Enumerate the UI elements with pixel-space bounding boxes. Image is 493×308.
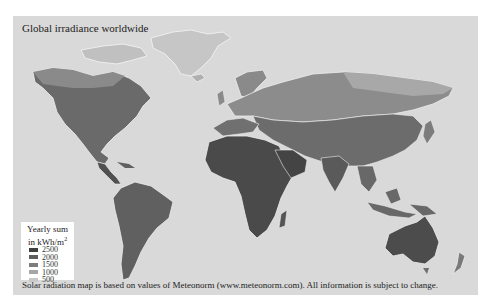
legend-swatch-1000	[29, 270, 38, 274]
source-footnote: Solar radiation map is based on values o…	[22, 280, 438, 290]
legend-item-1500: 1500	[29, 261, 58, 268]
legend-swatch-1500	[29, 263, 38, 267]
map-panel: Global irradiance worldwide Yearly sum i…	[13, 16, 478, 295]
region-iceland	[191, 74, 205, 82]
region-south-america	[113, 182, 173, 280]
legend-label: 2500	[42, 246, 58, 253]
region-greenland	[151, 30, 231, 76]
legend-item-2500: 2500	[29, 246, 58, 253]
region-southern-europe	[213, 118, 259, 136]
region-canadian-arctic	[81, 44, 147, 64]
region-uk	[217, 90, 225, 106]
region-borneo	[385, 188, 401, 204]
legend-items: 2500 2000 1500 1000 500	[29, 246, 58, 284]
region-japan	[423, 120, 435, 144]
legend-unit-superscript: 2	[64, 236, 67, 242]
map-title: Global irradiance worldwide	[22, 22, 148, 34]
region-tasmania	[423, 268, 429, 274]
region-new-zealand	[453, 252, 465, 274]
world-irradiance-map	[13, 16, 478, 295]
region-southeast-asia	[357, 166, 377, 192]
legend-title: Yearly sum in kWh/m2	[21, 224, 74, 247]
region-caribbean	[117, 162, 135, 168]
legend: Yearly sum in kWh/m2 2500 2000 1500 1000	[21, 222, 74, 280]
region-india	[321, 156, 349, 192]
region-central-america	[97, 162, 121, 184]
legend-swatch-2500	[29, 248, 38, 252]
legend-swatch-2000	[29, 255, 38, 259]
region-australia	[385, 216, 439, 264]
region-madagascar	[279, 210, 287, 228]
legend-label: 1500	[42, 261, 58, 268]
legend-title-line1: Yearly sum	[21, 224, 74, 234]
